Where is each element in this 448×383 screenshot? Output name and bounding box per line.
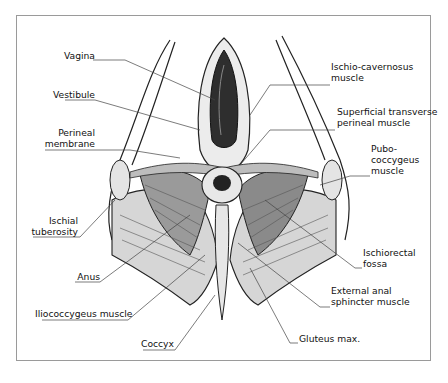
label-line: membrane — [35, 138, 95, 149]
label-line: fossa — [363, 258, 416, 269]
label-line: Vagina — [55, 50, 95, 61]
left-ischial-tuberosity — [110, 160, 130, 200]
right-ischial-tuberosity — [322, 160, 342, 200]
label-line: perineal muscle — [337, 117, 437, 128]
label-line: Ischial — [25, 215, 78, 226]
label-line: coccygeus — [371, 154, 419, 165]
label-gluteus-max: Gluteus max. — [299, 333, 360, 344]
label-line: muscle — [371, 165, 419, 176]
label-line: Gluteus max. — [299, 333, 360, 344]
label-line: muscle — [331, 72, 413, 83]
label-pubo-coccygeus-muscle: Pubo- coccygeus muscle — [371, 143, 419, 176]
label-line: Vestibule — [40, 89, 95, 100]
label-line: Ischiorectal — [363, 247, 416, 258]
label-line: External anal — [331, 285, 410, 296]
label-coccyx: Coccyx — [140, 338, 174, 349]
label-iliococcygeus-muscle: Iliococcygeus muscle — [35, 308, 130, 319]
label-vestibule: Vestibule — [40, 89, 95, 100]
label-ischiorectal-fossa: Ischiorectal fossa — [363, 247, 416, 269]
label-line: Ischio-cavernosus — [331, 61, 413, 72]
label-line: Pubo- — [371, 143, 419, 154]
label-perineal-membrane: Perineal membrane — [35, 127, 95, 149]
label-line: Iliococcygeus muscle — [35, 308, 130, 319]
label-ischio-cavernosus-muscle: Ischio-cavernosus muscle — [331, 61, 413, 83]
anal-opening — [213, 175, 231, 191]
label-line: Superficial transverse — [337, 106, 437, 117]
label-line: Perineal — [35, 127, 95, 138]
label-line: tuberosity — [25, 226, 78, 237]
label-vagina: Vagina — [55, 50, 95, 61]
label-line: Coccyx — [140, 338, 174, 349]
label-anus: Anus — [70, 271, 100, 282]
label-external-anal-sphincter-muscle: External anal sphincter muscle — [331, 285, 410, 307]
label-ischial-tuberosity: Ischial tuberosity — [25, 215, 78, 237]
label-superficial-transverse-perineal-muscle: Superficial transverse perineal muscle — [337, 106, 437, 128]
label-line: sphincter muscle — [331, 296, 410, 307]
label-line: Anus — [70, 271, 100, 282]
